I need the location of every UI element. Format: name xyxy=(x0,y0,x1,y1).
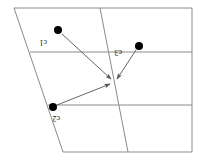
diagram-svg: c1c3c2 xyxy=(0,0,199,160)
label-c3: c3 xyxy=(114,48,122,57)
dot-c2 xyxy=(49,103,57,111)
label-c1: c1 xyxy=(39,38,47,47)
dot-c3 xyxy=(135,42,143,50)
region-background xyxy=(14,8,192,152)
dot-c1 xyxy=(54,26,62,34)
label-c2: c2 xyxy=(52,114,60,123)
diagram-canvas: c1c3c2 xyxy=(0,0,199,160)
